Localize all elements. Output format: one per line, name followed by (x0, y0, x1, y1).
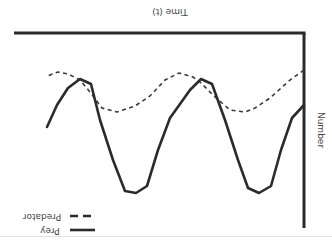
legend-predator-label: Predator (23, 212, 62, 222)
legend-prey-label: Prey (40, 226, 60, 236)
legend: Predator Prey (23, 212, 95, 236)
prey-series-line (47, 79, 304, 193)
predator-prey-chart: Time (t) Number Predator Prey (0, 0, 332, 249)
x-axis-label: Time (t) (152, 7, 188, 17)
predator-series-line (47, 70, 304, 112)
y-axis-label: Number (316, 112, 326, 148)
